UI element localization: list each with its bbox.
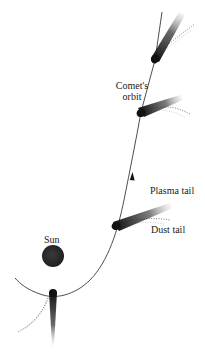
comets-orbit-label: Comet's orbit xyxy=(112,80,152,102)
plasma-tail-label: Plasma tail xyxy=(150,185,194,196)
comet-top xyxy=(149,12,195,65)
dust-tail-inner xyxy=(22,302,46,330)
dust-tail-label: Dust tail xyxy=(151,224,185,235)
sun xyxy=(42,245,64,267)
plasma-tail xyxy=(151,12,185,62)
comet-orbit-diagram xyxy=(0,0,205,360)
comets-orbit-label-line2: orbit xyxy=(112,91,152,102)
comets-orbit-label-line1: Comet's xyxy=(112,80,152,91)
orbit-direction-arrow-icon xyxy=(130,172,135,181)
comet-head xyxy=(49,289,57,297)
dust-tail-outer xyxy=(26,296,49,328)
plasma-tail xyxy=(49,292,57,346)
comet-orbit-path xyxy=(15,12,162,296)
dust-tail xyxy=(18,298,48,332)
sun-label: Sun xyxy=(44,234,60,245)
comet-perihelion xyxy=(18,289,57,346)
